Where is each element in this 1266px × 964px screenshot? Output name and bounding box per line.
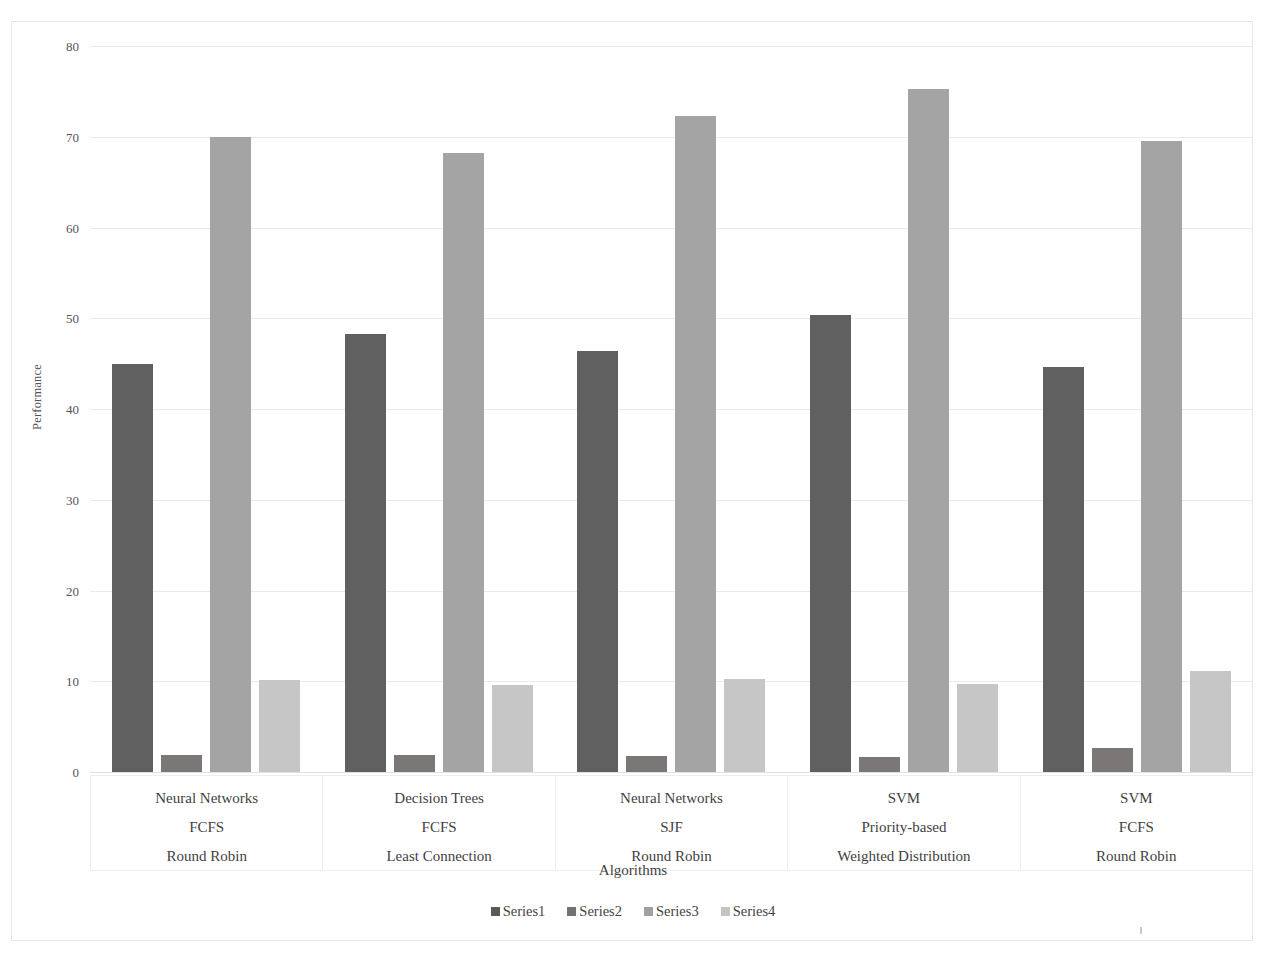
category-label-line: Priority-based <box>861 813 946 842</box>
bar-slot <box>626 46 667 772</box>
legend-label: Series4 <box>733 903 776 920</box>
bar-group <box>90 46 323 772</box>
category-label-line: SVM <box>888 784 921 813</box>
bar-slot <box>1043 46 1084 772</box>
bar-series1-g4[interactable] <box>810 315 851 772</box>
bar-slot <box>675 46 716 772</box>
bar-series2-g1[interactable] <box>161 755 202 772</box>
bar-group <box>323 46 556 772</box>
bar-slot <box>724 46 765 772</box>
bar-slot <box>394 46 435 772</box>
bar-group <box>1020 46 1253 772</box>
y-axis-title: Performance <box>30 364 45 430</box>
bar-series3-g3[interactable] <box>675 116 716 772</box>
bar-slot <box>443 46 484 772</box>
bar-slot <box>908 46 949 772</box>
category-label-2: Decision TreesFCFSLeast Connection <box>323 776 555 870</box>
bar-series1-g3[interactable] <box>577 351 618 772</box>
bar-group <box>555 46 788 772</box>
legend-swatch-icon <box>721 907 730 916</box>
bar-slot <box>259 46 300 772</box>
bar-slot <box>161 46 202 772</box>
legend-label: Series2 <box>579 903 622 920</box>
y-tick-label-30: 30 <box>39 493 79 506</box>
bar-series4-g2[interactable] <box>492 685 533 772</box>
bar-series4-g3[interactable] <box>724 679 765 772</box>
bar-slot <box>210 46 251 772</box>
bar-slot <box>1190 46 1231 772</box>
category-label-line: FCFS <box>189 813 224 842</box>
bar-series1-g1[interactable] <box>112 364 153 772</box>
category-label-line: SVM <box>1120 784 1153 813</box>
bar-series2-g3[interactable] <box>626 756 667 772</box>
category-label-line: SJF <box>660 813 683 842</box>
bar-groups <box>90 46 1253 772</box>
y-tick-label-80: 80 <box>39 40 79 53</box>
scan-artifact <box>1140 927 1142 934</box>
bar-series4-g4[interactable] <box>957 684 998 772</box>
bar-slot <box>577 46 618 772</box>
legend-item-series1[interactable]: Series1 <box>491 903 546 920</box>
x-axis-category-labels: Neural NetworksFCFSRound RobinDecision T… <box>90 775 1253 871</box>
y-tick-label-0: 0 <box>39 766 79 779</box>
category-label-line: Decision Trees <box>394 784 484 813</box>
chart-figure: Performance 01020304050607080 Neural Net… <box>0 0 1266 964</box>
plot-area: 01020304050607080 <box>90 46 1253 772</box>
category-label-5: SVMFCFSRound Robin <box>1021 776 1252 870</box>
category-label-line: FCFS <box>1119 813 1154 842</box>
chart-legend: Series1Series2Series3Series4 <box>0 903 1266 920</box>
category-label-line: FCFS <box>422 813 457 842</box>
legend-item-series4[interactable]: Series4 <box>721 903 776 920</box>
y-tick-label-40: 40 <box>39 403 79 416</box>
legend-label: Series1 <box>503 903 546 920</box>
legend-item-series3[interactable]: Series3 <box>644 903 699 920</box>
legend-swatch-icon <box>644 907 653 916</box>
bar-series2-g5[interactable] <box>1092 748 1133 772</box>
bar-slot <box>1141 46 1182 772</box>
category-label-line: Neural Networks <box>620 784 723 813</box>
legend-swatch-icon <box>567 907 576 916</box>
category-label-4: SVMPriority-basedWeighted Distribution <box>788 776 1020 870</box>
y-tick-label-20: 20 <box>39 584 79 597</box>
category-label-3: Neural NetworksSJFRound Robin <box>556 776 788 870</box>
bar-series1-g2[interactable] <box>345 334 386 772</box>
x-axis-title: Algorithms <box>0 862 1266 879</box>
legend-label: Series3 <box>656 903 699 920</box>
bar-series3-g2[interactable] <box>443 153 484 772</box>
bar-series3-g5[interactable] <box>1141 141 1182 772</box>
bar-slot <box>112 46 153 772</box>
bar-series2-g4[interactable] <box>859 757 900 772</box>
bar-series3-g1[interactable] <box>210 137 251 772</box>
bar-group <box>788 46 1021 772</box>
bar-series3-g4[interactable] <box>908 89 949 772</box>
bar-series1-g5[interactable] <box>1043 367 1084 772</box>
bar-slot <box>492 46 533 772</box>
bar-slot <box>957 46 998 772</box>
category-label-1: Neural NetworksFCFSRound Robin <box>91 776 323 870</box>
bar-series4-g1[interactable] <box>259 680 300 772</box>
gridline-0 <box>90 772 1253 773</box>
bar-slot <box>345 46 386 772</box>
bar-slot <box>859 46 900 772</box>
bar-slot <box>1092 46 1133 772</box>
y-tick-label-70: 70 <box>39 130 79 143</box>
y-tick-label-60: 60 <box>39 221 79 234</box>
category-label-line: Neural Networks <box>155 784 258 813</box>
bar-slot <box>810 46 851 772</box>
legend-swatch-icon <box>491 907 500 916</box>
y-tick-label-50: 50 <box>39 312 79 325</box>
bar-series2-g2[interactable] <box>394 755 435 772</box>
legend-item-series2[interactable]: Series2 <box>567 903 622 920</box>
bar-series4-g5[interactable] <box>1190 671 1231 772</box>
y-tick-label-10: 10 <box>39 675 79 688</box>
